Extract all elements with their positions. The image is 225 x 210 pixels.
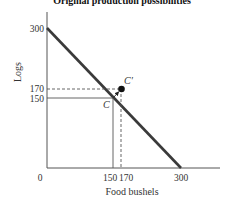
c-to-cprime-arrow [114, 92, 119, 98]
x-tick-0: 0 [38, 173, 43, 183]
y-tick-150: 150 [30, 94, 45, 104]
y-axis-label: Logs [12, 62, 23, 82]
x-tick-300: 300 [174, 173, 189, 183]
x-tick-150: 150 [103, 173, 118, 183]
x-axis-label: Food bushels [105, 186, 158, 197]
point-cprime-marker [118, 86, 125, 93]
y-tick-300: 300 [30, 24, 45, 34]
x-tick-170: 170 [119, 173, 134, 183]
point-c-label: C [103, 99, 110, 110]
point-cprime-label: C′ [124, 75, 134, 86]
y-tick-170: 170 [30, 84, 45, 94]
chart-title: Original production possibilities [53, 0, 191, 6]
chart: Original production possibilities C C′ 3… [0, 0, 225, 210]
